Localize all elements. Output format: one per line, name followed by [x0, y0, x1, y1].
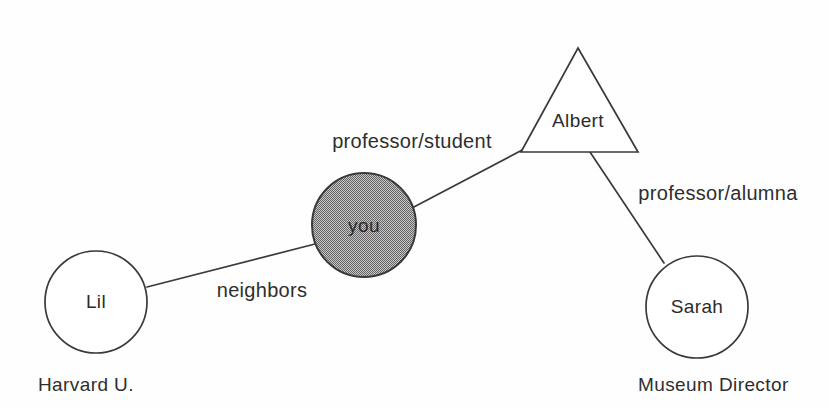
node-albert-label: Albert: [552, 110, 604, 131]
node-sarah[interactable]: Sarah: [646, 256, 748, 358]
node-lil-label: Lil: [86, 291, 106, 312]
node-albert[interactable]: Albert: [521, 48, 638, 152]
edge-label-professor-student: professor/student: [332, 130, 492, 152]
caption-museum-director: Museum Director: [638, 374, 789, 395]
edge-albert-sarah: [590, 152, 664, 263]
node-lil[interactable]: Lil: [45, 251, 147, 353]
diagram-canvas: Lil you Albert Sarah neighbors professor…: [0, 0, 828, 409]
edge-label-professor-alumna: professor/alumna: [638, 182, 798, 204]
node-you[interactable]: you: [312, 173, 416, 277]
node-you-label: you: [348, 215, 380, 236]
node-sarah-label: Sarah: [671, 296, 724, 317]
captions-group: Harvard U. Museum Director: [38, 374, 789, 395]
edge-you-albert: [412, 148, 526, 208]
social-network-diagram: Lil you Albert Sarah neighbors professor…: [0, 0, 828, 409]
caption-harvard-u: Harvard U.: [38, 374, 134, 395]
edge-label-neighbors: neighbors: [217, 279, 308, 301]
node-albert-triangle[interactable]: [521, 48, 638, 152]
